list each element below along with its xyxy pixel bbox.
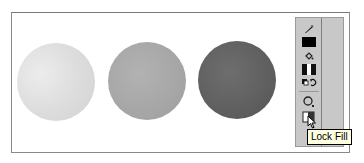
medium-circle-shape[interactable] bbox=[108, 42, 186, 120]
tools-panel bbox=[295, 17, 344, 147]
lock-fill-tooltip: Lock Fill bbox=[307, 129, 352, 145]
lasso-button[interactable] bbox=[300, 97, 318, 109]
swap-colors-button[interactable] bbox=[300, 77, 318, 87]
swap-colors-icon bbox=[301, 73, 317, 91]
black-swatch bbox=[302, 37, 316, 47]
toolbar-divider bbox=[299, 91, 319, 92]
fill-color-button[interactable] bbox=[300, 51, 318, 61]
light-circle-shape[interactable] bbox=[17, 43, 95, 121]
dark-circle-shape[interactable] bbox=[198, 41, 276, 119]
stroke-color-button[interactable] bbox=[300, 24, 318, 34]
